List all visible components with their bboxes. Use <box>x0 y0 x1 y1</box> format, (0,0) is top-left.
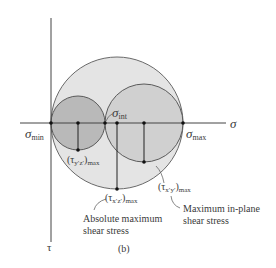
sigma-int-point <box>103 121 107 125</box>
tau-xy-label: (τx′y′)max <box>158 181 191 194</box>
tau-xz-point <box>115 187 119 191</box>
tau-yz-point <box>76 148 80 152</box>
sigma-max-label: σmax <box>186 126 206 142</box>
mohr-circle-diagram: σ τ σmin σint σmax (τy′z′)max (τx′z′)max… <box>0 0 276 268</box>
large-center-point <box>115 121 119 125</box>
inplane-max-shear-line1: Maximum in-plane <box>183 203 260 214</box>
inplane-leader <box>171 196 180 208</box>
tau-xy-point <box>142 160 146 164</box>
tau-axis-label: τ <box>47 241 52 253</box>
absolute-max-shear-line1: Absolute maximum <box>83 213 162 224</box>
sigma-min-point <box>49 121 53 125</box>
absolute-max-shear-line2: shear stress <box>83 225 129 236</box>
tau-xz-label: (τx′z′)max <box>105 192 138 205</box>
inplane-max-shear-line2: shear stress <box>183 215 229 226</box>
left-center-point <box>76 121 80 125</box>
sigma-max-point <box>181 121 185 125</box>
figure-caption: (b) <box>118 243 130 255</box>
right-center-point <box>142 121 146 125</box>
sigma-axis-label: σ <box>230 116 237 131</box>
sigma-min-label: σmin <box>25 126 44 142</box>
